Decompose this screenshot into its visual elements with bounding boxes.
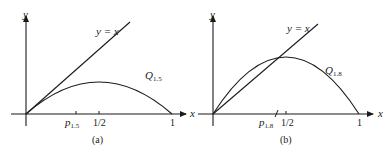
diagonal-label: y = x (286, 22, 310, 34)
y-axis-label: y (22, 8, 28, 20)
diagonal-line (213, 24, 318, 114)
diagonal-label: y = x (95, 25, 119, 37)
y-axis-label: y (209, 8, 215, 20)
curve-q-1-5 (26, 82, 172, 114)
x-axis-label: x (377, 107, 383, 119)
curve-label: Q1.5 (145, 69, 162, 83)
tick-one-label: 1 (357, 117, 362, 128)
tick-one-label: 1 (170, 117, 175, 128)
panel-a: y x y = x Q1.5 p1.5 1/2 1 (a) (11, 8, 195, 146)
curve-q-1-8 (213, 57, 359, 114)
tick-half-label: 1/2 (93, 117, 106, 128)
curve-label: Q1.8 (325, 64, 342, 78)
fixed-point-label: p1.8 (258, 116, 274, 130)
figure-canvas: y x y = x Q1.5 p1.5 1/2 1 (a) y x y = x … (0, 0, 390, 154)
fixed-point-label: p1.5 (64, 116, 80, 130)
tick-half-label: 1/2 (281, 117, 294, 128)
x-axis-label: x (189, 107, 195, 119)
panel-b: y x y = x Q1.8 p1.8 1/2 1 (b) (198, 8, 383, 146)
panel-caption: (b) (280, 134, 292, 146)
panel-caption: (a) (92, 134, 103, 146)
